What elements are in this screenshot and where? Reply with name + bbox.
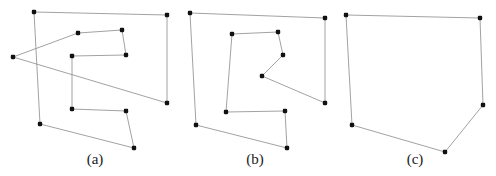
vertex-point bbox=[285, 146, 289, 150]
panel-group-b bbox=[188, 11, 327, 150]
panel-caption-c: (c) bbox=[385, 152, 445, 167]
vertex-point bbox=[230, 32, 234, 36]
vertex-point bbox=[323, 101, 327, 105]
vertex-point bbox=[283, 109, 287, 113]
vertex-point bbox=[132, 146, 136, 150]
vertex-point bbox=[38, 122, 42, 126]
polygon-outline-b bbox=[190, 13, 325, 148]
vertex-point bbox=[165, 101, 169, 105]
vertex-point bbox=[120, 28, 124, 32]
vertex-point bbox=[276, 30, 280, 34]
vertex-point bbox=[194, 123, 198, 127]
vertex-point bbox=[70, 54, 74, 58]
panel-group-c bbox=[344, 13, 485, 154]
vertex-point bbox=[165, 13, 169, 17]
polygon-outline-c bbox=[346, 15, 483, 152]
vertex-point bbox=[344, 13, 348, 17]
panel-group-a bbox=[11, 10, 169, 150]
vertex-point bbox=[323, 16, 327, 20]
vertex-point bbox=[11, 55, 15, 59]
vertex-point bbox=[281, 53, 285, 57]
figure-canvas bbox=[0, 0, 496, 176]
panel-caption-b: (b) bbox=[225, 152, 285, 167]
vertex-point bbox=[224, 110, 228, 114]
vertex-point bbox=[124, 53, 128, 57]
figure-container: (a) (b) (c) bbox=[0, 0, 496, 176]
vertex-point bbox=[76, 31, 80, 35]
vertex-point bbox=[70, 107, 74, 111]
vertex-point bbox=[350, 123, 354, 127]
vertex-point bbox=[478, 16, 482, 20]
vertex-point bbox=[188, 11, 192, 15]
vertex-point bbox=[481, 103, 485, 107]
vertex-point bbox=[124, 109, 128, 113]
vertex-point bbox=[260, 74, 264, 78]
vertex-point bbox=[32, 10, 36, 14]
panel-caption-a: (a) bbox=[65, 152, 125, 167]
polygon-outline-a bbox=[13, 12, 167, 148]
